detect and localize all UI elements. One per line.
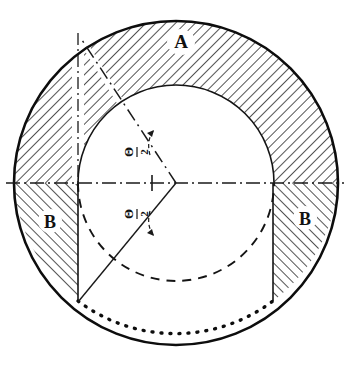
angle-arrow-lower xyxy=(147,229,154,236)
ray-lower-solid xyxy=(78,183,176,302)
angle-lower-numerator: Θ xyxy=(121,209,136,219)
region-b-right-label: B xyxy=(299,209,311,229)
diagram-canvas: A B B Θ 2 Θ 2 xyxy=(0,0,348,365)
angle-lower-denominator: 2 xyxy=(138,211,150,217)
angle-upper-denominator: 2 xyxy=(138,149,150,155)
angle-arrow-upper xyxy=(147,130,154,137)
angle-label-lower: Θ 2 xyxy=(121,209,150,219)
region-b-left-label: B xyxy=(44,212,56,232)
angle-upper-numerator: Θ xyxy=(121,147,136,157)
region-a-label: A xyxy=(174,31,188,52)
annular-segment-diagram: A B B Θ 2 Θ 2 xyxy=(0,0,348,365)
